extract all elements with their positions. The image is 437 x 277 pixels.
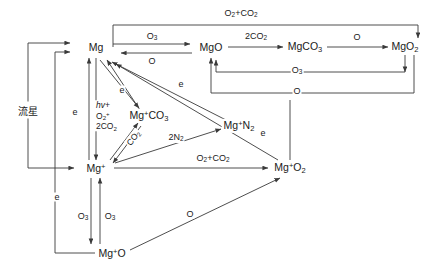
- stack-line-o2plus: O2+: [96, 110, 117, 121]
- edge-label-2n2: 2N2: [167, 133, 184, 143]
- edge-label-top-o2-co2: O2+CO2: [224, 9, 259, 19]
- node-mg-plus-o: Mg+O: [96, 247, 127, 260]
- edge-label-o3-mgp-to-mgpo: O3: [77, 212, 90, 222]
- edge-mgo2-to-mgco3-o3: [216, 55, 405, 72]
- reaction-network-diagram: Mg MgO MgCO3 MgO2 Mg+CO3 Mg+N2 Mg+ Mg+O2…: [0, 0, 437, 277]
- edge-label-mgo-to-mg-o: O: [147, 57, 156, 66]
- edge-mgpo-to-mgpo2-o: [130, 178, 280, 250]
- edge-label-mgo2-to-mgo-o: O: [292, 87, 301, 96]
- node-mg-plus: Mg+: [84, 162, 107, 175]
- edge-label-mg-to-mgo-o3: O3: [146, 32, 159, 42]
- node-mgco3: MgCO3: [286, 40, 325, 54]
- edge-label-mgo2-to-mgco3-o3: O3: [291, 66, 304, 76]
- edge-label-mgco3-to-mgo2-o: O: [352, 33, 361, 42]
- edge-label-o-mgpo-to-mgpo2: O: [185, 210, 194, 219]
- node-mg-plus-n2: Mg+N2: [222, 119, 257, 133]
- edge-label-e-mg-mgplus: e: [71, 108, 78, 117]
- edge-label-e-mgpo2-to-mg: e: [259, 129, 266, 138]
- edge-label-o2-co2-lower: O2+CO2: [196, 154, 231, 164]
- edge-label-e-lower-left: e: [53, 193, 60, 202]
- node-mgo2: MgO2: [390, 40, 421, 54]
- edge-lower-left-e-to-mg: [55, 52, 70, 253]
- stack-line-2co2: 2CO2: [96, 121, 117, 132]
- edge-mgo2-to-mgo-o: [211, 55, 414, 93]
- edge-label-e-mgpn2-to-mg: e: [177, 80, 184, 89]
- node-mg: Mg: [87, 41, 106, 54]
- edge-meteor-to-mg: [28, 43, 70, 80]
- edge-meteor-to-mgp: [28, 140, 74, 168]
- stack-line-hv: hv+: [96, 100, 117, 110]
- node-mg-plus-o2: Mg+O2: [272, 161, 307, 175]
- photoionization-stack-label: hv+ O2+ 2CO2: [95, 100, 118, 131]
- node-mg-plus-co3: Mg+CO3: [128, 109, 171, 123]
- meteor-source-label: 流星: [16, 102, 40, 119]
- edge-label-mgo-to-mgco3-2co2: 2CO2: [244, 32, 268, 42]
- edge-label-o3-mgpo-to-mgp: O3: [104, 212, 117, 222]
- edge-label-e-mgpco3-to-mg: e: [118, 86, 125, 95]
- node-mgo: MgO: [198, 41, 225, 54]
